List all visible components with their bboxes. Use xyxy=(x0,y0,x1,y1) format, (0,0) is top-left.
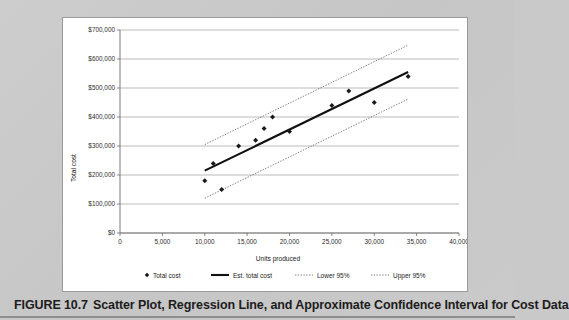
legend-label-total-cost: Total cost xyxy=(153,272,181,279)
chart-legend: Total costEst. total costLower 95%Upper … xyxy=(145,272,426,280)
series-line-est-total-cost xyxy=(205,72,408,171)
svg-text:35,000: 35,000 xyxy=(407,238,427,245)
figure-caption-text: Scatter Plot, Regression Line, and Appro… xyxy=(93,298,569,312)
series-line-upper-95 xyxy=(205,45,408,144)
figure-caption: FIGURE 10.7Scatter Plot, Regression Line… xyxy=(14,298,504,312)
svg-text:5,000: 5,000 xyxy=(154,238,170,245)
svg-text:40,000: 40,000 xyxy=(449,238,467,245)
x-tick-labels: 05,00010,00015,00020,00025,00030,00035,0… xyxy=(118,238,467,245)
data-points xyxy=(202,74,410,192)
data-point-diamond xyxy=(406,74,411,79)
svg-text:$400,000: $400,000 xyxy=(88,113,115,120)
y-axis-title: Total cost xyxy=(70,154,77,182)
svg-text:$0: $0 xyxy=(108,229,116,236)
legend-label-est-total-cost: Est. total cost xyxy=(233,272,272,279)
legend-label-upper-95: Upper 95% xyxy=(393,272,426,280)
data-point-diamond xyxy=(253,138,258,143)
svg-text:$100,000: $100,000 xyxy=(88,200,115,207)
data-point-diamond xyxy=(219,187,224,192)
svg-text:$300,000: $300,000 xyxy=(88,142,115,149)
x-axis-title: Units produced xyxy=(256,255,301,263)
svg-text:20,000: 20,000 xyxy=(280,238,300,245)
caption-rule xyxy=(0,316,515,318)
legend-marker-total-cost xyxy=(145,273,150,278)
data-point-diamond xyxy=(262,126,267,131)
svg-text:30,000: 30,000 xyxy=(364,238,384,245)
data-point-diamond xyxy=(372,100,377,105)
data-point-diamond xyxy=(202,178,207,183)
svg-text:0: 0 xyxy=(118,238,122,245)
scatter-plot: $0$100,000$200,000$300,000$400,000$500,0… xyxy=(63,18,467,291)
svg-text:$500,000: $500,000 xyxy=(88,84,115,91)
data-point-diamond xyxy=(270,115,275,120)
series-line-lower-95 xyxy=(205,99,408,198)
svg-text:10,000: 10,000 xyxy=(195,238,215,245)
svg-text:$600,000: $600,000 xyxy=(88,55,115,62)
svg-text:$200,000: $200,000 xyxy=(88,171,115,178)
y-tick-labels: $0$100,000$200,000$300,000$400,000$500,0… xyxy=(88,26,115,236)
svg-text:25,000: 25,000 xyxy=(322,238,342,245)
svg-text:$700,000: $700,000 xyxy=(88,26,115,33)
figure-number: FIGURE 10.7 xyxy=(14,298,88,312)
data-point-diamond xyxy=(236,144,241,149)
svg-text:15,000: 15,000 xyxy=(237,238,257,245)
legend-label-lower-95: Lower 95% xyxy=(317,272,350,279)
chart-panel: $0$100,000$200,000$300,000$400,000$500,0… xyxy=(62,17,468,292)
data-point-diamond xyxy=(346,88,351,93)
